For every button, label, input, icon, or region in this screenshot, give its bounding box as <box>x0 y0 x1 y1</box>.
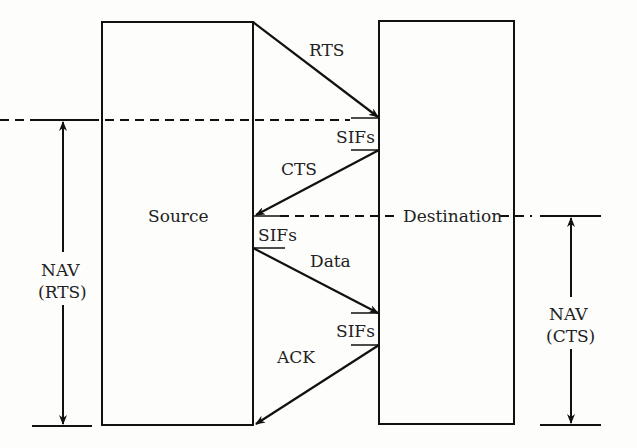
nav-rts-label-line1: NAV <box>41 260 80 280</box>
ack-arrow <box>256 345 379 424</box>
sifs-label-1: SIFs <box>336 127 375 147</box>
nav-cts-label-line1: NAV <box>549 304 588 324</box>
destination-label: Destination <box>403 206 502 226</box>
nav-cts-label-line2: (CTS) <box>546 326 595 346</box>
diagram-canvas: RTS SIFs CTS SIFs Data SIFs ACK Source D… <box>0 0 637 448</box>
sifs-label-3: SIFs <box>336 321 375 341</box>
sifs-label-2: SIFs <box>258 225 297 245</box>
data-label: Data <box>310 251 351 271</box>
cts-arrow <box>256 150 379 215</box>
rts-label: RTS <box>309 40 345 60</box>
rts-arrow <box>253 22 378 117</box>
cts-label: CTS <box>281 159 317 179</box>
source-label: Source <box>148 206 209 226</box>
nav-rts-label-line2: (RTS) <box>38 282 87 302</box>
ack-label: ACK <box>276 347 315 367</box>
